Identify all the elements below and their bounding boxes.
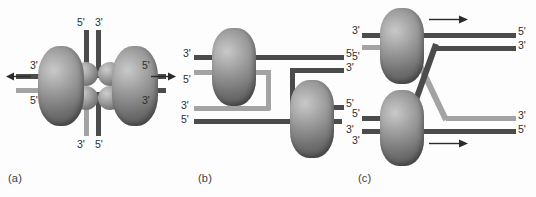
panel-c: 3' 5' 5' 3' 5' 3' 3' 5' (c) — [350, 0, 536, 197]
arrow-right-icon — [150, 71, 176, 82]
polymerase-complex-b-lower — [290, 80, 334, 158]
label-c-lower-right-bottom: 5' — [518, 124, 526, 135]
arrow-lower-right-icon — [428, 138, 468, 149]
label-c-lower-left-top: 5' — [352, 108, 360, 119]
replication-complex-figure: 5' 3' 3' 5' 3' 5' 5' 3' (a) 3' 5' 5' 3' … — [0, 0, 536, 197]
label-a-right-lower: 3' — [142, 95, 150, 106]
strand-c-lower-right-top — [446, 116, 516, 121]
polymerase-lobe-left — [38, 46, 84, 126]
label-c-upper-right-top: 5' — [518, 26, 526, 37]
label-c-upper-right-bottom: 3' — [518, 40, 526, 51]
label-a-bottom-right: 5' — [95, 139, 103, 150]
polymerase-lobe-right — [112, 46, 158, 126]
label-a-top-left: 5' — [77, 17, 85, 28]
strand-b-upper-lagging-vert — [266, 70, 271, 110]
arrow-left-icon — [6, 71, 32, 82]
polymerase-complex-c-lower — [380, 90, 424, 166]
polymerase-complex-c-upper — [380, 8, 424, 84]
strand-b-upper-right-lower — [290, 68, 344, 73]
label-b-upper-left-bottom: 5' — [183, 74, 191, 85]
label-b-lower-left-bottom: 5' — [181, 114, 189, 125]
label-a-bottom-left: 3' — [77, 139, 85, 150]
label-c-upper-left-bottom: 5' — [352, 51, 360, 62]
panel-b: 3' 5' 5' 3' 3' 5' 5' 3' (b) — [180, 0, 350, 197]
label-a-left-lower: 5' — [30, 95, 38, 106]
label-a-left-upper: 3' — [30, 60, 38, 71]
label-c-lower-left-bottom: 3' — [352, 135, 360, 146]
arrow-upper-right-icon — [428, 14, 468, 25]
polymerase-complex-b-upper — [212, 28, 256, 106]
label-c-lower-right-top: 3' — [518, 110, 526, 121]
label-a-right-upper: 5' — [142, 60, 150, 71]
label-a-top-right: 3' — [95, 17, 103, 28]
panel-a-caption: (a) — [8, 172, 22, 184]
label-b-upper-left-top: 3' — [183, 48, 191, 59]
strand-b-lower-lagging-out — [194, 106, 270, 111]
panel-b-caption: (b) — [198, 172, 212, 184]
panel-a: 5' 3' 3' 5' 3' 5' 5' 3' (a) — [0, 0, 180, 197]
label-c-upper-left-top: 3' — [352, 25, 360, 36]
label-b-lower-left-top: 3' — [181, 100, 189, 111]
panel-c-caption: (c) — [358, 172, 371, 184]
